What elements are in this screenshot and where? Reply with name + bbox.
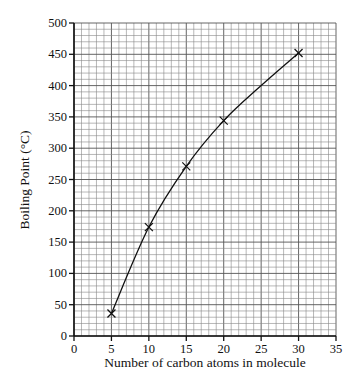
svg-text:250: 250 — [48, 173, 67, 187]
svg-text:5: 5 — [108, 342, 114, 356]
svg-text:150: 150 — [48, 235, 67, 249]
axes — [69, 23, 336, 341]
svg-text:500: 500 — [48, 16, 67, 30]
svg-text:0: 0 — [61, 329, 67, 343]
y-axis-label: Boiling Point (°C) — [17, 130, 32, 229]
svg-text:20: 20 — [217, 342, 230, 356]
svg-text:10: 10 — [143, 342, 156, 356]
svg-text:50: 50 — [55, 298, 68, 312]
svg-text:350: 350 — [48, 110, 67, 124]
svg-text:450: 450 — [48, 47, 67, 61]
svg-text:100: 100 — [48, 266, 67, 280]
svg-text:0: 0 — [71, 342, 77, 356]
boiling-point-chart: 0510152025303505010015020025030035040045… — [0, 0, 361, 386]
grid — [74, 23, 336, 336]
svg-text:300: 300 — [48, 141, 67, 155]
x-axis-label: Number of carbon atoms in molecule — [104, 355, 305, 370]
svg-text:200: 200 — [48, 204, 67, 218]
data-markers — [107, 49, 302, 317]
svg-text:15: 15 — [180, 342, 193, 356]
svg-text:30: 30 — [292, 342, 305, 356]
svg-text:35: 35 — [330, 342, 343, 356]
svg-text:25: 25 — [255, 342, 268, 356]
svg-text:400: 400 — [48, 79, 67, 93]
